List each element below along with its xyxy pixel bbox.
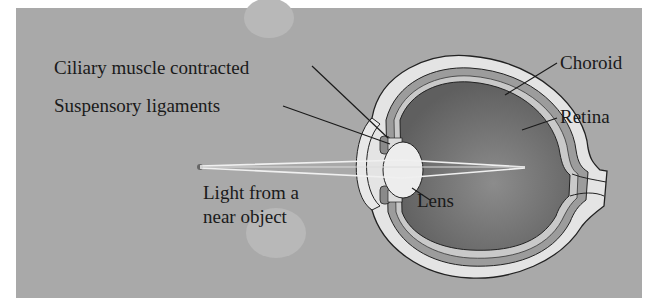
label-choroid: Choroid: [560, 52, 622, 74]
label-light-line1: Light from a: [203, 182, 299, 204]
label-retina: Retina: [560, 106, 610, 128]
label-ciliary-muscle: Ciliary muscle contracted: [54, 57, 249, 79]
label-suspensory-ligaments: Suspensory ligaments: [54, 95, 220, 117]
label-light-line2: near object: [203, 206, 287, 228]
label-lens: Lens: [417, 190, 454, 212]
eye-diagram: [0, 0, 658, 308]
